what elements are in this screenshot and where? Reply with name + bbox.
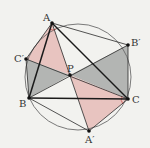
side-BC [29, 98, 128, 99]
point-C [126, 97, 130, 101]
point-Cprime [24, 57, 28, 61]
label-B: B [19, 98, 26, 109]
point-Bprime [126, 43, 130, 47]
label-A: A [42, 12, 51, 23]
point-A [50, 21, 54, 25]
point-B [27, 96, 31, 100]
label-Cprime: C′ [14, 53, 25, 64]
label-C: C [132, 94, 140, 105]
label-Bprime: B′ [131, 37, 141, 48]
cyclic-triangle-diagram: A B C P A′ B′ C′ [0, 0, 150, 148]
label-Aprime: A′ [84, 134, 95, 145]
label-P: P [67, 63, 74, 74]
point-Aprime [87, 129, 91, 133]
